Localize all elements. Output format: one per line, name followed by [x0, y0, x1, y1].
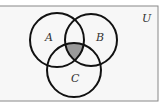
set-a-label: A — [44, 31, 53, 44]
set-b-label: B — [95, 31, 104, 44]
universe-label: U — [142, 12, 152, 25]
venn-diagram: A B C U — [0, 0, 166, 108]
set-c-label: C — [71, 72, 80, 85]
